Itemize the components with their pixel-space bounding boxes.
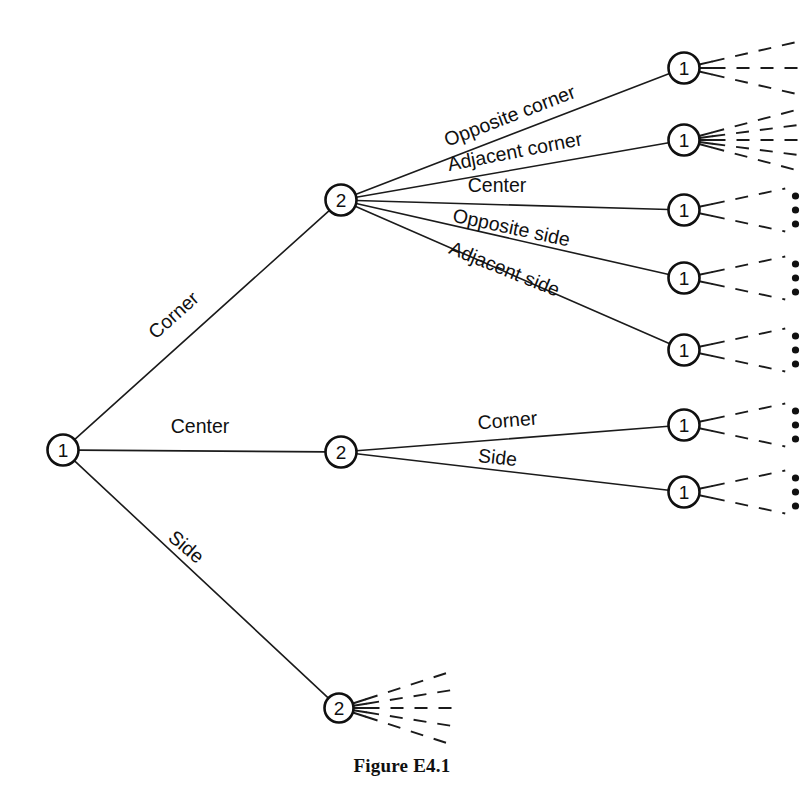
edges-layer [74,74,669,699]
edge-label-e-ct-side: Side [477,444,518,470]
continuation-branch-cont-l2-g [712,498,785,514]
edge-label-e-root-center: Center [171,415,230,437]
continuation-branch-cont-l2-g [712,470,785,486]
node-l2-c[interactable]: 1 [669,195,700,226]
continuation-stub [353,704,366,706]
continuation-stub [699,204,712,207]
node-root[interactable]: 1 [48,435,79,466]
continuation-branch-cont-l2-f [712,403,785,419]
continuation-stub [353,712,365,716]
continuation-stub [699,281,712,284]
continuation-branch-cont-l2-b [712,147,796,170]
continuation-branch-cont-l2-b [712,110,796,133]
edge-label-e-root-side: Side [164,526,208,568]
ellipsis-dot [792,502,799,509]
continuation-stub [699,142,712,144]
ellipsis-dot [792,288,799,295]
edge-label-e-root-corner: Corner [144,286,203,343]
node-label: 1 [679,340,690,361]
continuation-branch-cont-l1-side [365,716,455,745]
ellipsis-dot [792,474,799,481]
continuation-stub [699,419,712,422]
edge-label-e-c-center: Center [468,174,527,196]
node-label: 1 [679,200,690,221]
edge-e-root-side [74,461,328,699]
continuation-stub [699,353,712,356]
node-l1-side[interactable]: 2 [325,694,354,723]
continuation-branch-cont-l2-d [712,256,785,272]
ellipsis-dot [792,488,799,495]
node-label: 2 [336,442,347,463]
node-label: 1 [679,130,690,151]
node-label: 1 [58,440,69,461]
node-l2-g[interactable]: 1 [669,477,700,508]
continuation-branch-cont-l2-d [712,284,785,300]
continuation-branch-cont-l2-c [712,188,785,204]
node-label: 1 [679,58,690,79]
node-label: 1 [679,268,690,289]
continuation-stub [699,495,712,498]
ellipsis-dot [792,260,799,267]
node-l2-b[interactable]: 1 [669,125,700,156]
continuation-stub [699,428,712,431]
ellipsis-dot [792,220,799,227]
continuation-branch-cont-l2-b [712,144,798,155]
continuation-branch-cont-l1-side [366,689,460,704]
ellipsis-dot [792,332,799,339]
node-l2-e[interactable]: 1 [669,335,700,366]
continuation-stub [699,62,712,65]
continuation-branch-cont-l2-a [712,74,797,94]
continuation-branch-cont-l2-e [712,328,785,344]
continuation-branch-cont-l2-b [712,125,798,136]
continuation-stub [699,71,712,74]
nodes-layer: 12221111111 [48,53,700,723]
continuation-stub [699,272,712,275]
continuation-stub [699,213,712,216]
continuation-branch-cont-l2-a [712,42,797,62]
node-l2-d[interactable]: 1 [669,263,700,294]
edge-e-c-center [356,200,668,209]
node-l1-center[interactable]: 2 [326,437,357,468]
ellipsis-dot [792,421,799,428]
ellipsis-dot [792,346,799,353]
continuation-stub [699,344,712,347]
node-label: 2 [336,190,347,211]
ellipsis-dot [792,360,799,367]
tree-diagram: 12221111111 CornerCenterSideOpposite cor… [0,0,804,809]
continuation-stub [353,700,365,704]
ellipsis-dot [792,407,799,414]
ellipsis-dot [792,274,799,281]
edge-e-root-center [78,450,325,452]
node-label: 1 [679,415,690,436]
continuation-branch-cont-l1-side [366,712,460,727]
continuation-stub [699,136,712,138]
node-label: 2 [334,698,345,719]
continuation-branch-cont-l2-c [712,216,785,232]
continuation-stub [699,133,712,136]
ellipsis-dot [792,435,799,442]
figure-caption: Figure E4.1 [0,755,804,777]
continuation-branch-cont-l2-f [712,431,785,447]
figure-container: 12221111111 CornerCenterSideOpposite cor… [0,0,804,809]
continuation-stub [353,710,366,712]
ellipsis-dot [792,192,799,199]
node-l2-a[interactable]: 1 [669,53,700,84]
edge-e-root-corner [75,210,330,439]
node-label: 1 [679,482,690,503]
continuation-stub [699,486,712,489]
continuation-branch-cont-l2-e [712,356,785,372]
node-l2-f[interactable]: 1 [669,410,700,441]
edge-label-e-ct-corner: Corner [477,406,539,433]
ellipsis-dot [792,206,799,213]
edge-labels-layer: CornerCenterSideOpposite cornerAdjacent … [144,80,584,567]
continuation-stub [699,144,712,147]
node-l1-corner[interactable]: 2 [326,185,357,216]
continuation-branch-cont-l1-side [365,670,455,699]
